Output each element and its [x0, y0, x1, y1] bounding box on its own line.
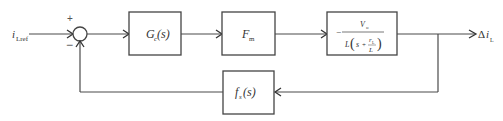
svg-text:s: s: [356, 40, 359, 49]
svg-text:m: m: [249, 35, 255, 43]
svg-text:): ): [377, 36, 382, 52]
svg-text:(s): (s): [243, 85, 256, 99]
svg-text:(: (: [350, 36, 355, 52]
svg-text:L: L: [368, 46, 373, 54]
plant-sign: −: [336, 27, 341, 37]
feedback-block: f s (s): [223, 71, 274, 114]
block-diagram: i Lref + − G c (s) F m − V o L ( s + r: [0, 0, 503, 121]
svg-text:i: i: [486, 28, 489, 40]
svg-text:s: s: [239, 93, 242, 101]
svg-text:+: +: [362, 41, 366, 49]
minus-sign: −: [66, 38, 73, 52]
output-label: Δ i L: [478, 28, 494, 43]
modulator-block: F m: [222, 12, 275, 55]
controller-block: G c (s): [129, 12, 181, 55]
summing-junction: [73, 27, 87, 41]
svg-text:L: L: [490, 37, 494, 43]
svg-text:(s): (s): [157, 27, 170, 41]
svg-text:Lref: Lref: [16, 35, 29, 43]
svg-text:Δ: Δ: [478, 28, 485, 40]
plant-block: − V o L ( s + r L L ): [327, 12, 397, 55]
plus-sign: +: [67, 13, 73, 24]
input-label: i Lref: [12, 28, 29, 43]
svg-text:i: i: [12, 28, 15, 40]
